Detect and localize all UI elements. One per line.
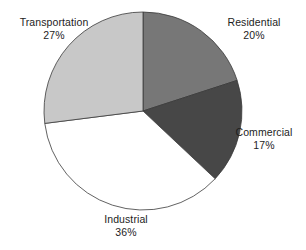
pie-label-commercial: Commercial 17% [224,126,304,153]
pie-label-transportation: Transportation 27% [2,16,106,43]
pie-label-industrial-name: Industrial [78,213,174,226]
pie-label-industrial-value: 36% [78,226,174,239]
pie-label-transportation-name: Transportation [2,16,106,29]
pie-label-commercial-name: Commercial [224,126,304,139]
pie-label-transportation-value: 27% [2,29,106,42]
pie-label-residential-name: Residential [206,16,302,29]
pie-chart: Transportation 27% Residential 20% Comme… [0,0,306,250]
pie-label-residential-value: 20% [206,29,302,42]
pie-label-industrial: Industrial 36% [78,213,174,240]
pie-label-residential: Residential 20% [206,16,302,43]
pie-label-commercial-value: 17% [224,139,304,152]
